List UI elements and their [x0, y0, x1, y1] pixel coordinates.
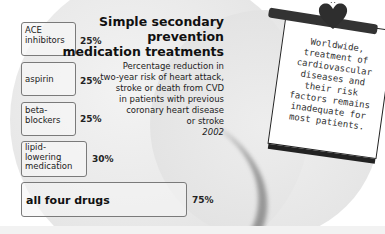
item-value: 25%	[80, 76, 102, 86]
item-aspirin: aspirin	[21, 62, 76, 96]
item-value: 30%	[92, 154, 114, 164]
item-all-four-drugs: all four drugs	[21, 182, 187, 217]
heart-icon	[318, 2, 348, 30]
clipboard-text: Worldwide, treatment of cardiovascular d…	[277, 34, 385, 135]
title-line: prevention	[62, 29, 224, 44]
title-line: Simple secondary	[62, 14, 224, 29]
subtitle-line: two-year risk of heart attack,	[100, 72, 224, 83]
subtitle-line: or stroke	[100, 116, 224, 127]
item-label: medication	[25, 162, 83, 172]
chart-title: Simple secondary prevention medication t…	[62, 14, 224, 59]
item-lipid-lowering: lipid- lowering medication	[21, 141, 87, 177]
item-value: 75%	[192, 195, 214, 205]
chart-subtitle: Percentage reduction in two-year risk of…	[100, 61, 224, 138]
title-line: medication treatments	[62, 44, 224, 59]
item-label: all four drugs	[26, 194, 110, 207]
item-label: aspirin	[25, 66, 72, 92]
subtitle-line: coronary heart disease	[100, 105, 224, 116]
item-beta-blockers: beta- blockers	[21, 102, 76, 136]
subtitle-line: in patients with previous	[100, 94, 224, 105]
year-label: 2002	[100, 127, 224, 138]
subtitle-line: stroke or death from CVD	[100, 83, 224, 94]
subtitle-line: Percentage reduction in	[100, 61, 224, 72]
bottom-band	[0, 226, 385, 234]
item-value: 25%	[80, 114, 102, 124]
item-label: blockers	[25, 116, 72, 126]
